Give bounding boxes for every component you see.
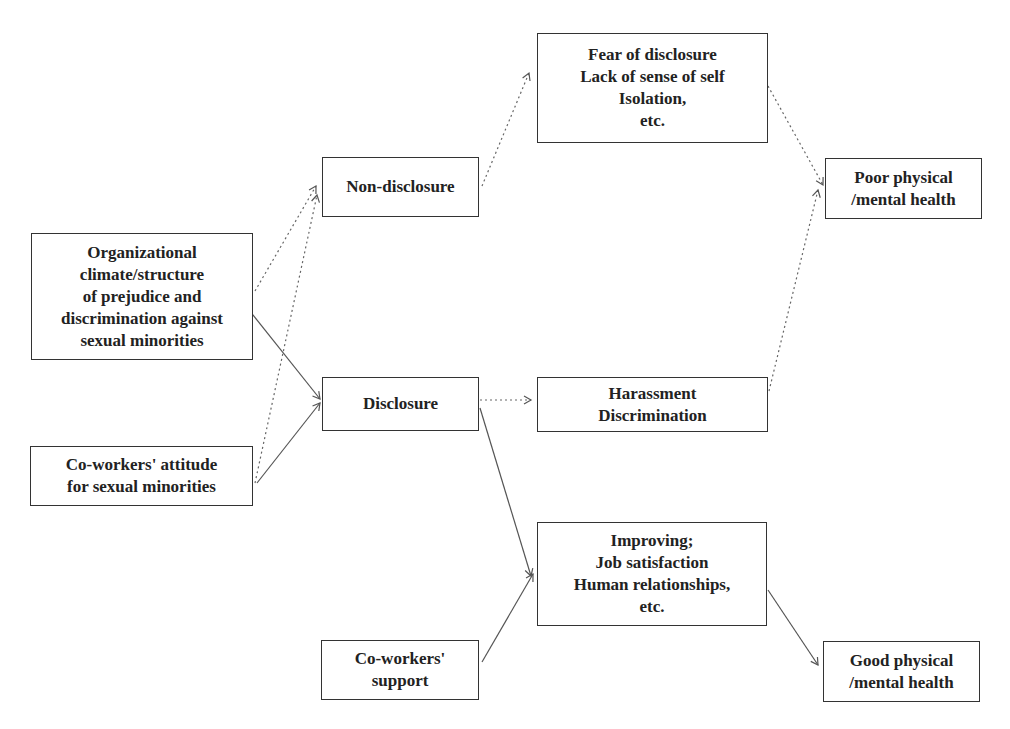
node-line: sexual minorities — [61, 330, 223, 352]
node-line: Job satisfaction — [574, 552, 731, 574]
node-line: support — [355, 670, 446, 692]
node-line: Disclosure — [363, 393, 438, 415]
node-line: Improving; — [574, 530, 731, 552]
node-line: Good physical — [849, 650, 953, 672]
edge-fear-to-poorhealth — [768, 86, 823, 185]
node-line: etc. — [580, 110, 724, 132]
node-line: Co-workers' attitude — [66, 454, 218, 476]
node-line: Lack of sense of self — [580, 66, 724, 88]
node-line: climate/structure — [61, 264, 223, 286]
node-line: Fear of disclosure — [580, 44, 724, 66]
node-harassment: Harassment Discrimination — [537, 377, 768, 432]
node-coworkers-attitude: Co-workers' attitude for sexual minoriti… — [30, 446, 253, 506]
node-non-disclosure: Non-disclosure — [322, 157, 479, 217]
node-line: of prejudice and — [61, 286, 223, 308]
node-coworkers-support: Co-workers' support — [321, 640, 479, 700]
node-line: discrimination against — [61, 308, 223, 330]
node-line: Discrimination — [598, 405, 707, 427]
node-line: Co-workers' — [355, 648, 446, 670]
node-good-health: Good physical /mental health — [823, 641, 980, 702]
edge-improving-to-goodhealth — [768, 590, 818, 665]
edges-layer — [0, 0, 1010, 729]
node-line: /mental health — [851, 189, 955, 211]
node-line: Poor physical — [851, 167, 955, 189]
node-line: Organizational — [61, 242, 223, 264]
node-poor-health: Poor physical /mental health — [825, 158, 982, 219]
node-fear: Fear of disclosure Lack of sense of self… — [537, 33, 768, 143]
node-disclosure: Disclosure — [322, 377, 479, 431]
node-line: /mental health — [849, 672, 953, 694]
edge-harassment-to-poorhealth — [769, 190, 818, 391]
edge-attitude-to-disclosure — [257, 403, 320, 483]
edge-nondisclosure-to-fear — [482, 73, 529, 186]
node-line: Isolation, — [580, 88, 724, 110]
node-line: Non-disclosure — [346, 176, 454, 198]
node-org-climate: Organizational climate/structure of prej… — [31, 233, 253, 360]
flow-diagram: Organizational climate/structure of prej… — [0, 0, 1010, 729]
edge-org-to-nondisclosure — [255, 186, 316, 291]
node-line: Harassment — [598, 383, 707, 405]
node-improving: Improving; Job satisfaction Human relati… — [537, 522, 767, 626]
node-line: etc. — [574, 596, 731, 618]
node-line: for sexual minorities — [66, 476, 218, 498]
edge-org-to-disclosure — [245, 305, 320, 399]
node-line: Human relationships, — [574, 574, 731, 596]
edge-support-to-improving — [482, 574, 533, 662]
edge-disclosure-to-improving — [480, 408, 531, 576]
